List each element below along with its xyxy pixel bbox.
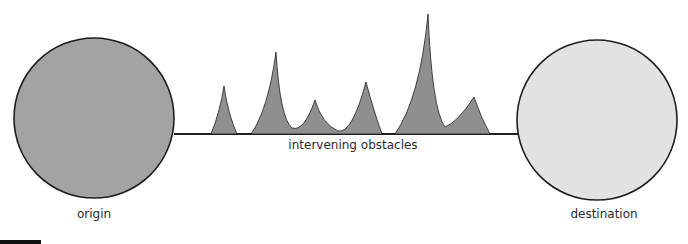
origin-label: origin (77, 207, 111, 221)
corner-bar (0, 240, 41, 244)
obstacle-peak-group-3 (395, 14, 490, 134)
obstacles-label: intervening obstacles (288, 138, 417, 152)
obstacle-peak-group-2 (251, 52, 382, 134)
destination-label: destination (570, 207, 637, 221)
destination-node (517, 40, 677, 200)
origin-node (14, 38, 174, 198)
obstacle-peak-1 (211, 86, 237, 134)
